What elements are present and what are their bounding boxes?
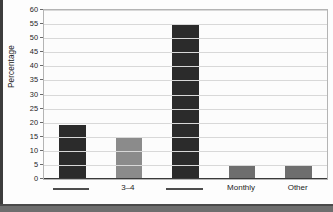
- plot-area: [43, 9, 328, 180]
- gridline: [44, 38, 327, 39]
- gridline: [44, 52, 327, 53]
- gridline: [44, 165, 327, 166]
- y-tick-label: 35: [4, 75, 38, 84]
- gridline: [44, 80, 327, 81]
- x-tick-label: [43, 183, 100, 190]
- y-tick-mark: [40, 164, 43, 165]
- scan-edge-bottom: [0, 206, 333, 212]
- y-tick-mark: [40, 136, 43, 137]
- x-tick-label: 3–4: [100, 183, 157, 192]
- gridline: [44, 123, 327, 124]
- x-axis-labels: 3–4MonthlyOther: [43, 183, 328, 201]
- y-tick-label: 55: [4, 19, 38, 28]
- y-tick-label: 0: [4, 174, 38, 183]
- x-tick-label: [156, 183, 213, 190]
- bar: [229, 165, 256, 179]
- bar: [285, 165, 312, 179]
- y-tick-label: 40: [4, 61, 38, 70]
- redacted-label: [166, 188, 202, 190]
- gridline: [44, 10, 327, 11]
- bar: [116, 138, 143, 179]
- gridline: [44, 66, 327, 67]
- y-tick-mark: [40, 122, 43, 123]
- y-tick-mark: [40, 9, 43, 10]
- bar-chart-figure: Percentage 051015202530354045505560 3–4M…: [0, 0, 333, 212]
- y-tick-label: 25: [4, 103, 38, 112]
- x-tick-label: Other: [269, 183, 326, 192]
- y-tick-label: 60: [4, 5, 38, 14]
- y-tick-label: 20: [4, 117, 38, 126]
- y-tick-label: 30: [4, 89, 38, 98]
- redacted-label: [53, 188, 89, 190]
- y-tick-mark: [40, 23, 43, 24]
- y-tick-label: 5: [4, 159, 38, 168]
- gridline: [44, 137, 327, 138]
- x-tick-label: Monthly: [213, 183, 270, 192]
- y-tick-label: 45: [4, 47, 38, 56]
- bar: [172, 24, 199, 179]
- bar: [59, 125, 86, 179]
- x-axis-baseline: [44, 178, 327, 179]
- y-tick-label: 15: [4, 131, 38, 140]
- y-tick-mark: [40, 94, 43, 95]
- y-tick-label: 50: [4, 33, 38, 42]
- gridline: [44, 24, 327, 25]
- figure-canvas: Percentage 051015202530354045505560 3–4M…: [3, 0, 333, 204]
- gridline: [44, 109, 327, 110]
- y-tick-mark: [40, 178, 43, 179]
- y-tick-label: 10: [4, 145, 38, 154]
- y-tick-mark: [40, 79, 43, 80]
- gridline: [44, 151, 327, 152]
- y-tick-mark: [40, 65, 43, 66]
- y-tick-mark: [40, 37, 43, 38]
- y-tick-mark: [40, 108, 43, 109]
- y-tick-mark: [40, 150, 43, 151]
- y-tick-mark: [40, 51, 43, 52]
- gridline: [44, 95, 327, 96]
